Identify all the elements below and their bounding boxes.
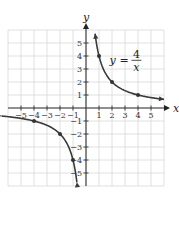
y-tick-label: 3	[77, 65, 82, 74]
curve-arrow-icon	[75, 182, 80, 187]
data-point	[110, 80, 114, 84]
equation-numerator: 4	[133, 48, 140, 61]
labels: xyy=4x	[82, 11, 179, 115]
x-tick-label: −2	[54, 111, 66, 120]
hyperbola-branch-negative	[2, 116, 77, 182]
x-tick-label: 1	[96, 111, 101, 120]
x-tick-label: 3	[122, 111, 127, 120]
x-axis-label: x	[173, 102, 179, 115]
hyperbola-chart: −5−4−3−2−112345−5−4−3−2−112345 xyy=4x	[0, 0, 179, 242]
x-tick-label: 5	[148, 111, 153, 120]
x-axis-arrow-icon	[164, 105, 170, 111]
hyperbola-branch-positive	[95, 34, 164, 100]
equation-denominator: x	[133, 61, 140, 74]
x-tick-label: −4	[28, 111, 40, 120]
y-tick-label: 1	[77, 91, 82, 100]
y-tick-label: −3	[70, 143, 82, 152]
data-point	[97, 54, 101, 58]
data-point	[136, 93, 140, 97]
x-tick-label: 4	[135, 111, 140, 120]
y-tick-label: −2	[70, 130, 82, 139]
data-point	[32, 119, 36, 123]
axes	[8, 23, 170, 186]
data-point	[71, 158, 75, 162]
y-tick-label: 5	[77, 39, 82, 48]
curve-arrow-icon	[0, 113, 2, 118]
x-tick-label: 2	[109, 111, 114, 120]
data-point	[58, 132, 62, 136]
y-tick-label: 4	[77, 52, 82, 61]
x-tick-label: −3	[41, 111, 53, 120]
equation-equals: =	[119, 54, 128, 67]
y-axis-label: y	[82, 11, 90, 24]
y-tick-label: −1	[70, 117, 82, 126]
equation-lhs: y	[108, 54, 116, 67]
y-tick-label: 2	[77, 78, 82, 87]
